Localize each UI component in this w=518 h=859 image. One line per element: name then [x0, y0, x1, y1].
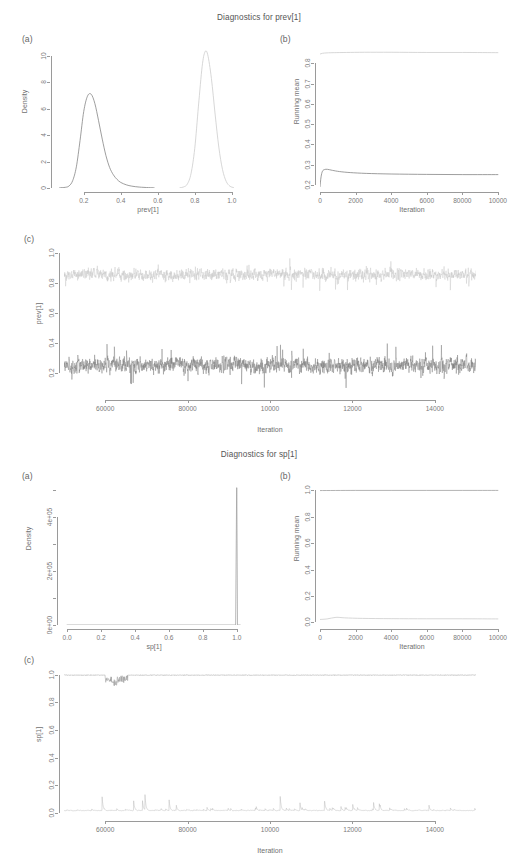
x-axis-tick-label: 0.6 — [153, 197, 162, 204]
y-axis-tick — [311, 570, 314, 571]
x-axis-tick-label: 0.0 — [62, 634, 71, 641]
y-axis-tick — [311, 84, 314, 85]
y-axis-minor-tick — [53, 544, 56, 545]
panel-label-c: (c) — [24, 655, 34, 665]
y-axis-tick — [55, 253, 58, 254]
x-axis-tick — [195, 192, 196, 195]
y-axis-tick — [55, 758, 58, 759]
x-axis-tick-label: 6000 — [419, 634, 434, 641]
y-axis-tick-label: 0e+00 — [46, 616, 53, 635]
x-axis-tick — [352, 400, 353, 403]
y-axis-tick — [55, 373, 58, 374]
figure-title-sp: Diagnostics for sp[1] — [0, 450, 518, 459]
y-axis-tick — [311, 165, 314, 166]
y-axis-tick-label: 0.6 — [304, 539, 311, 548]
axis-label-y-prev-b: Running mean — [293, 72, 300, 132]
y-axis-tick — [55, 283, 58, 284]
x-axis-tick — [188, 400, 189, 403]
panel-label-a: (a) — [22, 471, 33, 481]
panel-prev-a: (a) Density prev[1] 0.20.40.60.81.002468… — [0, 28, 260, 218]
panel-label-b: (b) — [280, 34, 291, 44]
x-axis-line — [320, 629, 498, 630]
figure-diagnostics-sp: Diagnostics for sp[1] (a) Density sp[1] … — [0, 440, 518, 859]
plot-area-sp-running-mean — [320, 485, 505, 625]
x-axis-tick-label: 60000 — [96, 826, 114, 833]
plot-area-sp-density — [62, 485, 247, 625]
y-axis-tick-label: 2 — [40, 160, 47, 164]
x-axis-tick — [67, 629, 68, 632]
y-axis-tick — [311, 517, 314, 518]
x-axis-tick-label: 60000 — [96, 405, 114, 412]
y-axis-tick — [55, 343, 58, 344]
y-axis-tick-label: 0.4 — [304, 565, 311, 574]
y-axis-tick-label: 0.7 — [304, 79, 311, 88]
plot-area-prev-running-mean — [320, 48, 505, 188]
axis-label-x-sp-a: sp[1] — [146, 643, 161, 650]
y-axis-tick — [55, 702, 58, 703]
y-axis-tick — [311, 596, 314, 597]
panel-sp-a: (a) Density sp[1] 0.00.20.40.60.81.00e+0… — [0, 465, 260, 655]
y-axis-tick-label: 0.3 — [304, 160, 311, 169]
y-axis-line — [57, 517, 58, 625]
y-axis-tick-label: 1.0 — [304, 486, 311, 495]
x-axis-tick — [427, 192, 428, 195]
y-axis-tick-label: 0.8 — [304, 59, 311, 68]
x-axis-tick-label: 14000 — [426, 405, 444, 412]
x-axis-tick — [356, 629, 357, 632]
y-axis-tick-label: 0.2 — [304, 180, 311, 189]
y-axis-tick — [55, 730, 58, 731]
x-axis-tick-label: 2000 — [348, 634, 363, 641]
y-axis-line — [315, 490, 316, 622]
x-axis-tick — [462, 629, 463, 632]
x-axis-tick-label: 80000 — [453, 197, 471, 204]
axis-label-x-prev-b: Iteration — [399, 206, 424, 213]
plot-area-prev-trace — [64, 248, 476, 396]
y-axis-tick — [311, 622, 314, 623]
x-axis-line — [320, 192, 498, 193]
y-axis-tick — [55, 675, 58, 676]
x-axis-tick — [462, 192, 463, 195]
x-axis-tick-label: 0.8 — [190, 197, 199, 204]
y-axis-line — [59, 253, 60, 374]
axis-label-y-sp-c: sp[1] — [35, 705, 42, 765]
y-axis-tick-label: 0.4 — [48, 753, 55, 762]
y-axis-tick — [311, 104, 314, 105]
y-axis-tick-label: 0.6 — [48, 308, 55, 317]
y-axis-tick-label: 4 — [40, 133, 47, 137]
axis-label-y-sp-a: Density — [25, 509, 32, 569]
panel-label-c: (c) — [24, 234, 34, 244]
y-axis-tick-label: 0.4 — [304, 140, 311, 149]
x-axis-tick-label: 80000 — [453, 634, 471, 641]
y-axis-tick-label: 8 — [40, 80, 47, 84]
x-axis-tick-label: 0.2 — [79, 197, 88, 204]
panel-prev-b: (b) Running mean Iteration 0200040006000… — [258, 28, 518, 218]
axis-label-x-sp-b: Iteration — [399, 643, 424, 650]
x-axis-tick-label: 10000 — [489, 634, 507, 641]
y-axis-tick-label: 2e+05 — [46, 562, 53, 581]
y-axis-tick — [47, 162, 50, 163]
y-axis-tick-label: 0.6 — [304, 99, 311, 108]
y-axis-tick — [311, 63, 314, 64]
panel-label-b: (b) — [280, 471, 291, 481]
x-axis-tick — [320, 192, 321, 195]
y-axis-tick — [311, 144, 314, 145]
x-axis-tick — [169, 629, 170, 632]
figure-diagnostics-prev: Diagnostics for prev[1] (a) Density prev… — [0, 0, 518, 440]
x-axis-tick — [105, 821, 106, 824]
x-axis-tick-label: 2000 — [348, 197, 363, 204]
y-axis-tick-label: 0.8 — [304, 512, 311, 521]
x-axis-tick — [203, 629, 204, 632]
y-axis-tick-label: 6 — [40, 107, 47, 111]
y-axis-tick — [311, 185, 314, 186]
x-axis-tick — [158, 192, 159, 195]
y-axis-tick-label: 0.0 — [48, 808, 55, 817]
x-axis-line — [67, 629, 237, 630]
x-axis-tick-label: 12000 — [343, 405, 361, 412]
axis-label-x-prev-a: prev[1] — [137, 206, 158, 213]
y-axis-minor-tick — [53, 490, 56, 491]
x-axis-tick-label: 6000 — [419, 197, 434, 204]
plot-area-sp-trace — [64, 669, 476, 817]
y-axis-tick-label: 0.2 — [48, 781, 55, 790]
y-axis-tick-label: 10 — [40, 52, 47, 59]
x-axis-tick-label: 0.6 — [164, 634, 173, 641]
